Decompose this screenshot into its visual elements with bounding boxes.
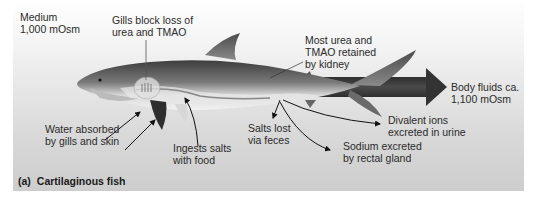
label-kidney: Most urea andTMAO retainedby kidney [305, 34, 376, 70]
caption-tag: (a) [18, 175, 31, 187]
label-medium: Medium1,000 mOsm [20, 11, 80, 35]
label-sodium-rectal: Sodium excretedby rectal gland [343, 140, 422, 164]
label-water-absorbed: Water absorbedby gills and skin [45, 123, 119, 147]
label-divalent-ions: Divalent ionsexcreted in urine [388, 114, 466, 138]
eye-icon [98, 78, 101, 81]
dorsal-fin [205, 33, 240, 60]
label-ingests-salts: Ingests saltswith food [173, 142, 231, 166]
label-gills: Gills block loss ofurea and TMAO [112, 14, 193, 38]
figure-caption: (a)Cartilaginous fish [18, 175, 126, 187]
pectoral-fin [150, 100, 167, 130]
label-salts-feces: Salts lostvia feces [248, 122, 291, 146]
label-body-fluids: Body fluids ca.1,100 mOsm [451, 81, 519, 105]
caption-title: Cartilaginous fish [37, 175, 126, 187]
